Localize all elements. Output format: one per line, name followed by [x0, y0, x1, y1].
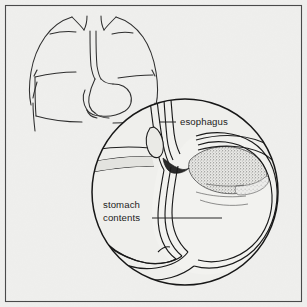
label-stomach-contents-line1: stomach — [103, 199, 140, 210]
illustration-figure: esophagus stomach contents — [0, 0, 307, 307]
label-esophagus-text: esophagus — [180, 116, 228, 127]
illustration-canvas: esophagus stomach contents — [0, 0, 307, 307]
label-stomach-contents-line2: contents — [103, 212, 140, 223]
